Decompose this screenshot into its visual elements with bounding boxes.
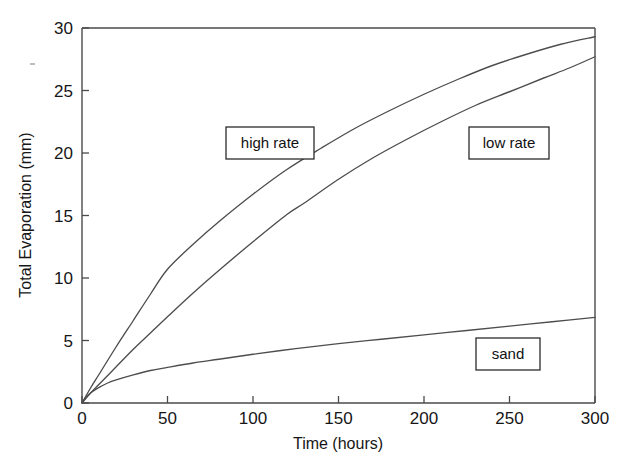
- low-rate-label: low rate: [483, 134, 536, 151]
- x-tick-label-0: 0: [77, 409, 86, 428]
- sand-label: sand: [492, 345, 525, 362]
- y-tick-label-0: 0: [64, 394, 73, 413]
- annotation-sand: sand: [476, 338, 540, 370]
- y-tick-label-20: 20: [54, 144, 73, 163]
- scan-speck: [30, 63, 35, 65]
- x-tick-label-150: 150: [324, 409, 352, 428]
- annotation-high-rate: high rate: [226, 127, 314, 159]
- y-tick-label-25: 25: [54, 82, 73, 101]
- x-tick-label-200: 200: [410, 409, 438, 428]
- x-tick-label-100: 100: [239, 409, 267, 428]
- x-axis-title: Time (hours): [293, 435, 383, 452]
- x-tick-label-250: 250: [495, 409, 523, 428]
- y-tick-label-15: 15: [54, 207, 73, 226]
- y-tick-label-30: 30: [54, 19, 73, 38]
- annotation-low-rate: low rate: [469, 127, 549, 159]
- y-tick-label-10: 10: [54, 269, 73, 288]
- y-axis-title: Total Evaporation (mm): [17, 132, 34, 297]
- y-tick-label-5: 5: [64, 332, 73, 351]
- high-rate-label: high rate: [241, 134, 299, 151]
- evaporation-line-chart: 0 5 10 15 20 25 30 0 50 100 150 200 250 …: [0, 0, 631, 457]
- x-tick-label-300: 300: [581, 409, 609, 428]
- x-tick-label-50: 50: [158, 409, 177, 428]
